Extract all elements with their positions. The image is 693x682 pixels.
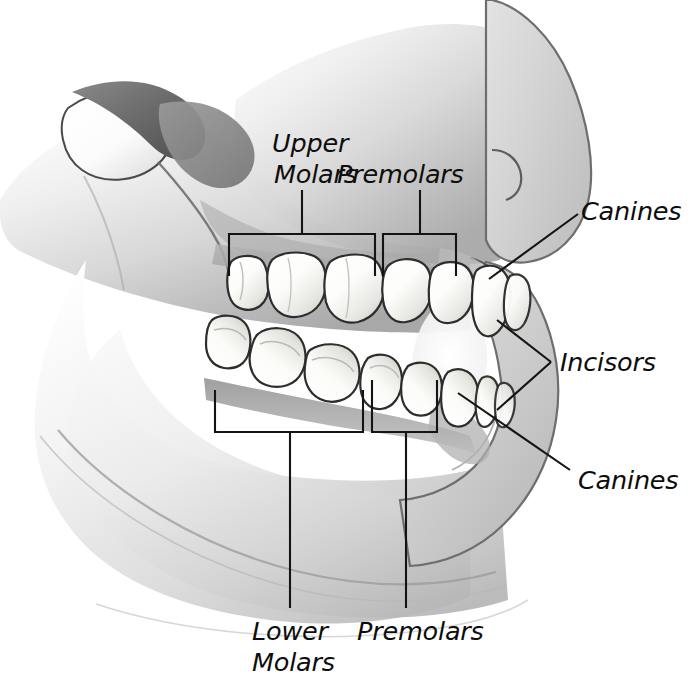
upper-tooth-premolar-1 xyxy=(429,262,474,323)
lower-tooth-premolar-1 xyxy=(401,363,442,416)
label-incisors: Incisors xyxy=(560,347,656,377)
label-upper-molars-line1: Upper xyxy=(272,128,350,158)
label-canines-lower: Canines xyxy=(578,465,678,495)
label-premolars-upper: Premolars xyxy=(337,159,464,189)
lower-tooth-molar-3 xyxy=(206,316,250,369)
label-lower-molars-line2: Molars xyxy=(252,647,335,677)
label-lower-molars-line1: Lower xyxy=(252,616,330,646)
upper-tooth-molar-3 xyxy=(227,256,268,310)
lower-tooth-canine xyxy=(441,369,478,426)
lower-tooth-molar-2 xyxy=(250,328,306,387)
diagram-canvas: Upper Molars Premolars Canines Incisors … xyxy=(0,0,693,682)
upper-lip-profile xyxy=(486,0,591,263)
anatomy-illustration: Upper Molars Premolars Canines Incisors … xyxy=(0,0,693,682)
label-premolars-lower: Premolars xyxy=(357,616,484,646)
upper-tooth-incisor-lateral xyxy=(504,274,530,330)
label-canines-upper: Canines xyxy=(581,196,681,226)
lower-tooth-premolar-2 xyxy=(360,355,402,409)
lower-tooth-molar-1 xyxy=(305,344,360,401)
upper-tooth-premolar-2 xyxy=(382,259,431,322)
upper-tooth-molar-2 xyxy=(267,253,326,318)
